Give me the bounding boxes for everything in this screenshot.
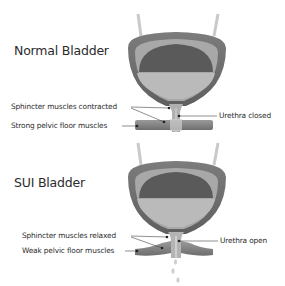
urethra-open-label: Urethra open [220,236,267,245]
weak-pelvic-floor-label: Weak pelvic floor muscles [22,246,114,255]
sui-bladder [125,143,226,283]
sui-bladder-title: SUI Bladder [14,175,85,190]
strong-pelvic-floor-label: Strong pelvic floor muscles [11,121,107,130]
sphincter-relaxed-label: Sphincter muscles relaxed [22,231,116,240]
normal-bladder [122,14,226,132]
normal-bladder-title: Normal Bladder [14,43,109,58]
sphincter-contracted-label: Sphincter muscles contracted [11,102,117,111]
urethra-closed-label: Urethra closed [219,111,271,120]
